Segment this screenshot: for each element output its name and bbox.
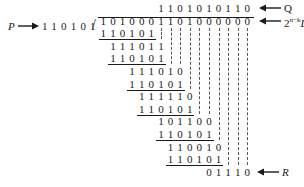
step-digit: 1 [127, 40, 137, 52]
step-digit: 1 [166, 90, 176, 102]
step-digit: 1 [108, 27, 118, 39]
bring-down-dashed-line [199, 28, 200, 114]
step-digit: 1 [185, 103, 195, 115]
step-digit: 1 [137, 52, 147, 64]
step-digit: 1 [127, 78, 137, 90]
step-digit: 1 [166, 153, 176, 165]
quotient-digit: 0 [243, 2, 253, 14]
step-digit: 0 [195, 128, 205, 140]
divisor-label: P [8, 20, 15, 32]
step-digit: 0 [214, 141, 224, 153]
bring-down-dashed-line [171, 28, 172, 64]
dividend-digit: 1 [185, 15, 195, 27]
step-digit: 1 [99, 27, 109, 39]
step-digit: 1 [108, 40, 118, 52]
step-digit: 1 [175, 90, 185, 102]
step-digit: 1 [147, 27, 157, 39]
step-digit: 1 [175, 78, 185, 90]
step-digit: 0 [166, 78, 176, 90]
step-digit: 1 [127, 65, 137, 77]
dividend-digit: 0 [175, 15, 185, 27]
step-digit: 0 [156, 103, 166, 115]
step-digit: 1 [156, 115, 166, 127]
remainder-label: R [282, 166, 289, 178]
step-digit: 1 [175, 153, 185, 165]
step-digit: 0 [175, 103, 185, 115]
step-digit: 0 [185, 141, 195, 153]
step-digit: 0 [147, 78, 157, 90]
step-digit: 1 [214, 153, 224, 165]
bring-down-dashed-line [228, 28, 229, 165]
dividend-digit: 1 [99, 15, 109, 27]
step-digit: 1 [166, 141, 176, 153]
step-digit: 1 [204, 141, 214, 153]
step-digit: 1 [147, 103, 157, 115]
step-digit: 0 [166, 115, 176, 127]
step-digit: 0 [195, 141, 205, 153]
step-digit: 0 [204, 115, 214, 127]
quotient-digit: 0 [175, 2, 185, 14]
dividend-digit: 0 [204, 15, 214, 27]
step-digit: 0 [137, 40, 147, 52]
step-digit: 1 [156, 40, 166, 52]
step-digit: 1 [185, 128, 195, 140]
step-digit: 0 [175, 65, 185, 77]
remainder-digit: 0 [204, 166, 214, 178]
division-diagram: P 110101 / Q 2n−kD R 1101010110101000110… [0, 0, 304, 187]
step-digit: 1 [156, 52, 166, 64]
bring-down-dashed-line [190, 28, 191, 89]
division-bracket: / [92, 18, 96, 32]
dividend-digit: 0 [233, 15, 243, 27]
step-digit: 1 [108, 52, 118, 64]
step-digit: 0 [147, 52, 157, 64]
quotient-digit: 1 [166, 2, 176, 14]
step-digit: 1 [175, 115, 185, 127]
dividend-digit: 0 [195, 15, 205, 27]
step-digit: 0 [127, 52, 137, 64]
dividend-digit: 0 [243, 15, 253, 27]
dividend-arrow-icon [258, 15, 282, 27]
step-digit: 0 [175, 128, 185, 140]
divisor-arrow-icon [18, 20, 40, 32]
step-digit: 1 [204, 128, 214, 140]
step-digit: 1 [185, 115, 195, 127]
step-digit: 1 [166, 103, 176, 115]
bring-down-dashed-line [238, 28, 239, 165]
bring-down-dashed-line [219, 28, 220, 139]
quotient-digit: 1 [185, 2, 195, 14]
step-digit: 0 [185, 90, 195, 102]
step-digit: 1 [147, 90, 157, 102]
bring-down-dashed-line [247, 28, 248, 165]
quotient-arrow-icon [258, 2, 282, 14]
dividend-digit: 1 [166, 15, 176, 27]
step-digit: 1 [118, 52, 128, 64]
dividend-digit: 0 [147, 15, 157, 27]
dividend-digit: 0 [214, 15, 224, 27]
step-digit: 1 [166, 65, 176, 77]
step-digit: 0 [195, 115, 205, 127]
step-digit: 0 [137, 27, 147, 39]
dividend-digit: 0 [137, 15, 147, 27]
dividend-digit: 1 [156, 15, 166, 27]
dividend-label: 2n−kD [284, 14, 304, 29]
remainder-digit: 1 [233, 166, 243, 178]
step-digit: 1 [127, 27, 137, 39]
step-digit: 1 [147, 65, 157, 77]
step-digit: 1 [156, 90, 166, 102]
step-digit: 1 [195, 153, 205, 165]
quotient-digit: 1 [156, 2, 166, 14]
quotient-digit: 1 [233, 2, 243, 14]
bring-down-dashed-line [180, 28, 181, 64]
step-digit: 0 [185, 153, 195, 165]
step-digit: 1 [137, 103, 147, 115]
step-digit: 1 [156, 78, 166, 90]
step-digit: 1 [147, 40, 157, 52]
step-digit: 1 [175, 141, 185, 153]
step-digit: 1 [118, 40, 128, 52]
dividend-label-exponent: n−k [290, 16, 301, 24]
remainder-arrow-icon [256, 166, 280, 178]
quotient-digit: 0 [214, 2, 224, 14]
dividend-label-var: D [300, 17, 304, 29]
bring-down-dashed-line [209, 28, 210, 114]
dividend-digit: 0 [223, 15, 233, 27]
